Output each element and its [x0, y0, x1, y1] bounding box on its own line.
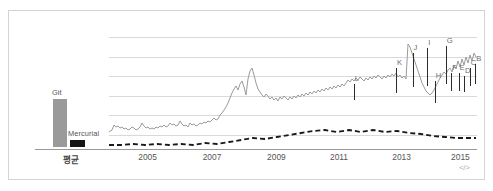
annotation-stem — [427, 48, 428, 87]
x-axis-tick-labels: 200520072009201120132015 — [109, 152, 477, 168]
average-bar-git-label: Git — [52, 88, 62, 97]
x-axis-line — [35, 149, 477, 150]
annotation-stem — [459, 73, 460, 91]
x-tick-label: 2013 — [392, 152, 411, 162]
embed-code-icon[interactable]: </> — [459, 163, 470, 172]
annotation-stem — [435, 81, 436, 104]
chart-screenshot: Git Mercurial 평균 LKJIHGFEDCB 20052007200… — [0, 0, 493, 191]
annotation-letter: L — [355, 75, 359, 83]
annotation-stem — [470, 68, 471, 86]
annotation-stem — [464, 76, 465, 92]
annotation-letter: E — [460, 64, 465, 72]
annotation-stem — [475, 64, 476, 85]
average-bar-mercurial-label: Mercurial — [68, 129, 99, 138]
x-tick-label: 2015 — [451, 152, 470, 162]
annotation-stem — [396, 68, 397, 93]
annotation-stem — [451, 73, 452, 91]
average-bar-mercurial[interactable] — [70, 140, 85, 147]
chart-card-frame: Git Mercurial 평균 LKJIHGFEDCB 20052007200… — [8, 10, 485, 180]
annotation-letter: J — [414, 44, 418, 52]
annotation-stem — [413, 53, 414, 87]
x-tick-label: 2005 — [138, 152, 157, 162]
average-axis-label: 평균 — [43, 153, 99, 165]
annotation-stem — [446, 46, 447, 84]
annotation-letter: F — [452, 64, 457, 72]
annotation-layer: LKJIHGFEDCB — [109, 35, 477, 149]
annotation-letter: B — [476, 55, 481, 63]
average-bar-panel: Git Mercurial 평균 — [35, 25, 107, 165]
annotation-stem — [354, 84, 355, 100]
x-tick-label: 2009 — [267, 152, 286, 162]
annotation-letter: I — [428, 39, 430, 47]
annotation-letter: H — [436, 72, 441, 80]
x-tick-label: 2007 — [203, 152, 222, 162]
annotation-letter: K — [397, 59, 402, 67]
average-bar-git[interactable] — [53, 99, 67, 147]
annotation-letter: G — [447, 37, 453, 45]
x-tick-label: 2011 — [330, 152, 348, 162]
